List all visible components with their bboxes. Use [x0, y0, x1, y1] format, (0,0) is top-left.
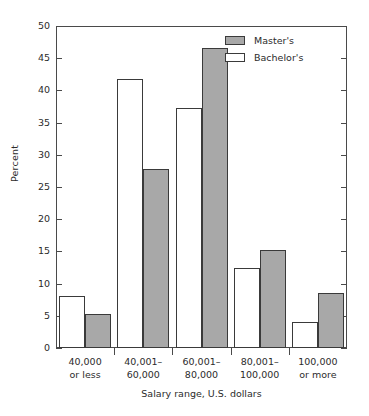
x-tick-label-line1: 40,001– [114, 356, 172, 369]
y-tick-label: 50 [22, 21, 50, 31]
x-tick-label-line2: or less [56, 369, 114, 382]
y-tick-label: 35 [22, 118, 50, 128]
bar-bachelors [292, 322, 318, 348]
x-tick-label-line1: 80,001– [231, 356, 289, 369]
bar-masters [260, 250, 286, 348]
x-axis-title: Salary range, U.S. dollars [56, 388, 347, 399]
x-tick-label: 40,001–60,000 [114, 356, 172, 381]
x-tick-label: 60,001–80,000 [172, 356, 230, 381]
bar-masters [318, 293, 344, 348]
legend-item: Master's [225, 33, 335, 48]
x-axis-separator [172, 348, 173, 355]
y-axis-title: Percent [9, 124, 20, 204]
y-tick-label: 5 [22, 311, 50, 321]
legend-swatch-bachelors [225, 53, 245, 62]
legend-label: Master's [254, 35, 294, 46]
y-tick-label: 0 [22, 343, 50, 353]
y-tick-label: 15 [22, 246, 50, 256]
legend-label: Bachelor's [254, 52, 303, 63]
x-tick-label: 80,001–100,000 [231, 356, 289, 381]
x-axis-tick-labels: 40,000or less40,001–60,00060,001–80,0008… [56, 356, 347, 390]
y-tick-label: 20 [22, 214, 50, 224]
legend-item: Bachelor's [225, 50, 335, 65]
bar-bachelors [176, 108, 202, 348]
y-tick-label: 25 [22, 182, 50, 192]
bar-masters [85, 314, 111, 348]
x-tick-label-line2: 60,000 [114, 369, 172, 382]
bars-layer [56, 26, 347, 348]
y-tick-mark-right [341, 348, 347, 349]
y-tick-label: 40 [22, 85, 50, 95]
y-tick-label: 45 [22, 53, 50, 63]
bar-chart: Percent 05101520253035404550 40,000or le… [0, 0, 369, 416]
y-tick-mark [56, 348, 62, 349]
bar-bachelors [234, 268, 260, 349]
y-tick-label: 10 [22, 279, 50, 289]
x-axis-separator [289, 348, 290, 355]
x-tick-label: 40,000or less [56, 356, 114, 381]
bar-masters [143, 169, 169, 348]
x-axis-separator [114, 348, 115, 355]
x-tick-label-line2: or more [289, 369, 347, 382]
x-axis-separator [231, 348, 232, 355]
bar-bachelors [117, 79, 143, 348]
x-tick-label-line2: 80,000 [172, 369, 230, 382]
x-tick-label: 100,000or more [289, 356, 347, 381]
bar-masters [202, 48, 228, 348]
x-tick-label-line1: 60,001– [172, 356, 230, 369]
x-tick-label-line2: 100,000 [231, 369, 289, 382]
bar-bachelors [59, 296, 85, 348]
legend-swatch-masters [225, 36, 245, 45]
legend: Master'sBachelor's [225, 33, 335, 67]
y-tick-label: 30 [22, 150, 50, 160]
x-tick-label-line1: 40,000 [56, 356, 114, 369]
x-tick-label-line1: 100,000 [289, 356, 347, 369]
